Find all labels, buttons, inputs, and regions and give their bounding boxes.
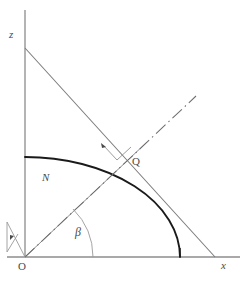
figure-container: z x O N Q β	[0, 0, 244, 285]
origin-label: O	[18, 261, 26, 272]
dash-dot-radial-line	[25, 96, 196, 257]
tangent-line-at-q	[25, 48, 215, 257]
z-axis-label: z	[9, 29, 13, 40]
origin-perpendicular-marker	[7, 222, 25, 257]
diagram-canvas	[0, 0, 244, 285]
angle-beta-label: β	[75, 226, 81, 238]
right-angle-marker	[101, 143, 131, 160]
x-axis-label: x	[221, 260, 226, 271]
point-q-label: Q	[132, 156, 140, 167]
normal-label: N	[42, 172, 49, 183]
